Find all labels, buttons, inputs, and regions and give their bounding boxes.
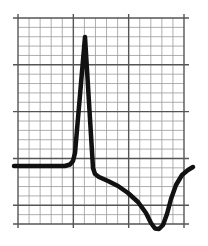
waveform-figure [0, 0, 208, 246]
minor-grid-lines [18, 18, 184, 224]
waveform-grid-chart [0, 0, 208, 246]
waveform-trace [14, 37, 193, 229]
